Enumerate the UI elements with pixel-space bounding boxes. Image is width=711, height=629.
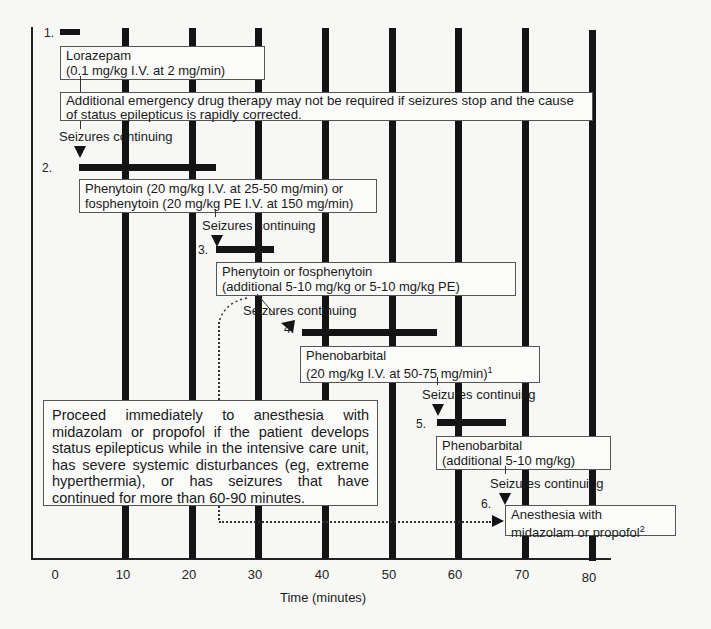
x-tick: 40 [302,567,342,582]
dotted-line [219,521,491,523]
step-4-duration-bar [302,329,437,336]
step-4-number: 4. [284,322,294,336]
note-top-box: Additional emergency drug therapy may no… [60,92,593,121]
step-6-box: Anesthesia withmidazolam or propofol2 [505,505,676,536]
x-axis-label: Time (minutes) [280,590,366,605]
arrow-down-icon [74,146,86,158]
x-tick: 70 [502,567,542,582]
seizures-continuing-label: Seizures continuing [422,387,535,402]
step-2-box: Phenytoin (20 mg/kg I.V. at 25-50 mg/min… [79,179,377,213]
step-4-box: Phenobarbital(20 mg/kg I.V. at 50-75 mg/… [300,346,540,383]
x-tick: 0 [35,567,75,582]
step-1-number: 1. [44,26,54,40]
dotted-line [218,506,220,520]
connector-line [505,466,506,474]
seizures-continuing-label: Seizures continuing [243,303,356,318]
y-axis-line [31,27,33,560]
x-tick: 20 [169,567,209,582]
step-3-box: Phenytoin or fosphenytoin(additional 5-1… [216,262,516,296]
x-tick: 30 [235,567,275,582]
step-5-number: 5. [416,417,426,431]
x-tick: 80 [569,570,609,585]
connector-line [80,76,81,92]
step-1-duration-bar [60,29,80,35]
arrow-right-icon [492,515,504,527]
step-1-box: Lorazepam(0.1 mg/kg I.V. at 2 mg/min) [60,46,265,80]
connector-line [215,209,216,217]
connector-line [80,121,81,129]
dotted-line [218,322,220,400]
step-3-duration-bar [216,246,274,253]
dotted-curve [215,296,255,326]
x-tick: 50 [369,567,409,582]
step-5-duration-bar [437,419,506,426]
seizures-continuing-label: Seizures continuing [202,218,315,233]
step-6-number: 6. [481,497,491,511]
note-side-box: Proceed immediately to anesthesia with m… [43,400,378,506]
step-5-box: Phenobarbital(additional 5-10 mg/kg) [436,436,611,470]
step-2-number: 2. [42,161,52,175]
x-tick: 10 [103,567,143,582]
seizures-continuing-label: Seizures continuing [490,476,603,491]
arrow-down-icon [432,404,444,416]
arrow-down-icon [499,493,511,505]
connector-line [437,377,438,385]
step-3-number: 3. [198,243,208,257]
step-2-duration-bar [79,164,216,171]
x-tick: 60 [435,567,475,582]
seizures-continuing-label: Seizures continuing [59,129,172,144]
